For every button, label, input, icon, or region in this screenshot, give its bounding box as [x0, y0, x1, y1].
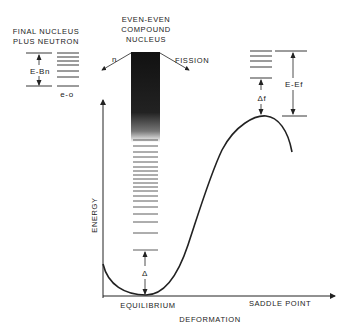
e-ef-label: E-Ef [285, 80, 303, 89]
fission-diagram: Δ EVEN-EVEN COMPOUND NUCLEUS n FISSION F… [0, 0, 352, 333]
delta-f-label: Δf [258, 94, 267, 103]
compound-label-1: EVEN-EVEN [122, 15, 171, 24]
delta-label: Δ [142, 269, 148, 278]
e-bn-label: E-Bn [30, 67, 50, 76]
compound-label-2: COMPOUND [121, 25, 170, 34]
compound-nucleus-levels [131, 52, 160, 250]
final-nucleus-label-2: PLUS NEUTRON [13, 37, 79, 46]
equilibrium-label: EQUILIBRIUM [120, 301, 175, 310]
saddle-point-label: SADDLE POINT [249, 299, 311, 308]
final-nucleus-label-1: FINAL NUCLEUS [13, 27, 80, 36]
neutron-label: n [112, 55, 117, 64]
deformation-axis-label: DEFORMATION [179, 315, 240, 324]
energy-axis-label: ENERGY [90, 197, 99, 232]
pairing-gap-delta: Δ [139, 251, 151, 295]
e-o-label: e-o [60, 90, 73, 99]
fission-label: FISSION [175, 56, 209, 65]
compound-label-3: NUCLEUS [126, 35, 166, 44]
